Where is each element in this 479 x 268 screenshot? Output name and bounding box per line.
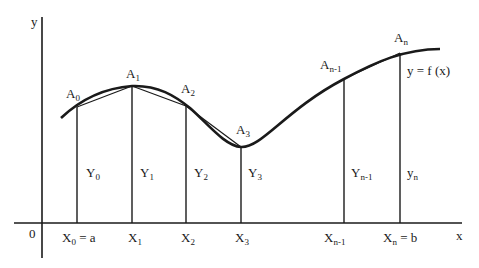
point-label-a2: A2 <box>181 81 195 98</box>
abscissa-label-x2: X2 <box>181 230 195 247</box>
point-label-an1: An-1 <box>320 57 341 74</box>
curve-f-of-x <box>61 49 440 147</box>
curve-label: y = f (x) <box>407 63 450 78</box>
point-label-an: An <box>394 30 408 47</box>
ordinate-label-y1: Y1 <box>140 165 154 182</box>
point-label-a0: A0 <box>66 86 80 103</box>
ordinate-label-yn: yn <box>407 165 419 182</box>
chord-a2-a3 <box>186 106 241 147</box>
abscissa-label-xn: Xn = b <box>383 230 417 247</box>
ordinate-label-y0: Y0 <box>86 165 100 182</box>
ordinate-label-y3: Y3 <box>248 165 262 182</box>
ordinate-label-y2: Y2 <box>194 165 208 182</box>
chord-an1-an <box>344 53 400 79</box>
point-label-a1: A1 <box>126 66 140 83</box>
chord-a0-a1 <box>77 86 132 107</box>
ordinate-label-yn1: Yn-1 <box>351 165 372 182</box>
abscissa-label-x0: X0 = a <box>62 230 96 247</box>
origin-label: 0 <box>29 226 36 241</box>
y-axis-label: y <box>31 14 38 29</box>
abscissa-label-x1: X1 <box>128 230 142 247</box>
point-label-a3: A3 <box>236 122 250 139</box>
trapezoidal-rule-diagram: y x 0 y = f (x) A0 A1 A2 A3 An-1 An Y0 Y… <box>0 0 479 268</box>
x-axis-label: x <box>456 228 463 243</box>
abscissa-label-xn1: Xn-1 <box>324 230 345 247</box>
abscissa-label-x3: X3 <box>235 230 249 247</box>
